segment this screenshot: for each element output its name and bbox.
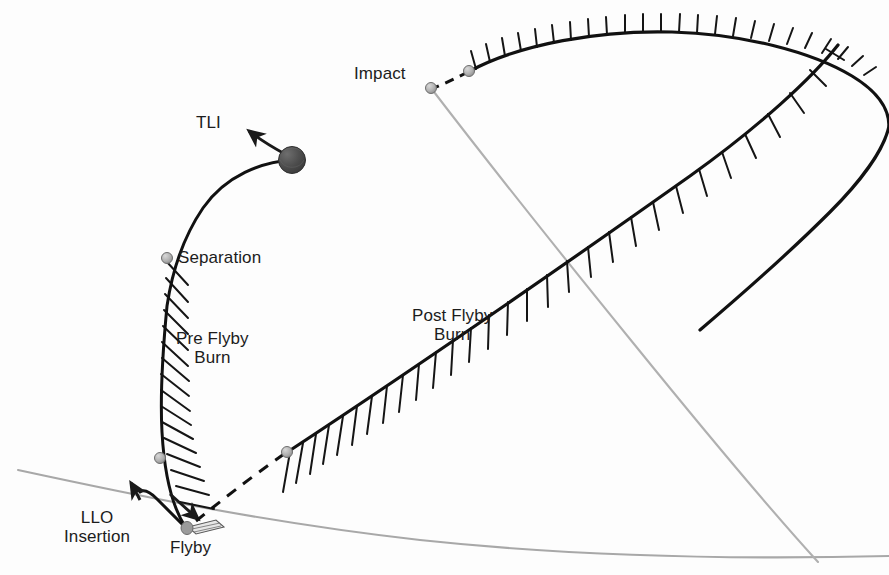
post-flyby-burn-start-marker [282, 447, 293, 458]
label-tli: TLI [196, 113, 221, 132]
impact-marker [426, 83, 437, 94]
pre-flyby-burn-end-marker [155, 453, 166, 464]
flyby-to-burn-dashed [196, 454, 284, 521]
lunar-surface-arc [18, 470, 889, 557]
separation-marker [162, 253, 173, 264]
label-impact: Impact [354, 64, 406, 83]
post-flyby-burn-hatching [283, 49, 844, 492]
flyby-spacecraft-icon [181, 520, 224, 535]
label-pre-flyby-burn: Pre Flyby Burn [176, 329, 249, 367]
label-separation: Separation [178, 248, 261, 267]
tli-arrow[interactable] [249, 131, 285, 154]
label-llo-insertion: LLO Insertion [64, 508, 130, 546]
post-flyby-trajectory [286, 45, 838, 453]
trajectory-canvas [0, 0, 889, 575]
label-flyby: Flyby [170, 538, 211, 557]
trajectory-diagram: TLI Separation Pre Flyby Burn LLO Insert… [0, 0, 889, 575]
earth-body [279, 147, 306, 174]
impact-dashed-segment [434, 72, 468, 88]
label-post-flyby-burn: Post Flyby Burn [412, 306, 492, 344]
loop-top-hatching [471, 14, 876, 75]
loop-right-descent [700, 126, 889, 330]
impact-burn-start-marker [464, 66, 475, 77]
